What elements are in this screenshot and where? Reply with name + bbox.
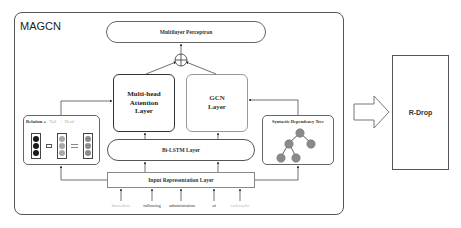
gcn-to-fusion-arrow — [186, 62, 216, 74]
rdrop-node: R-Drop — [392, 55, 449, 170]
input-to-relation-arrow — [61, 166, 107, 180]
input-word: following — [143, 203, 161, 208]
input-word: carboxylic — [231, 203, 250, 208]
to-rdrop-arrow-icon — [354, 96, 389, 128]
input-word: Immediate — [111, 203, 130, 208]
input-word: of — [212, 203, 216, 208]
input-to-tree-arrow — [255, 166, 298, 180]
fusion-plus-icon — [175, 54, 187, 66]
tree-to-gcn-arrow — [249, 100, 298, 115]
attention-to-fusion-arrow — [146, 62, 176, 74]
input-word: administration — [169, 203, 195, 208]
relation-to-attention-arrow — [61, 101, 112, 115]
